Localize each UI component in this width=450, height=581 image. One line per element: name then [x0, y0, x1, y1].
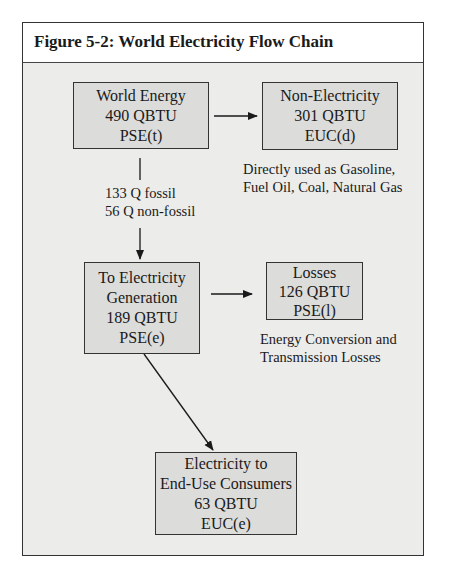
note-line: Transmission Losses	[260, 348, 397, 366]
node-value: 63 QBTU	[156, 494, 296, 514]
node-value: 189 QBTU	[85, 308, 199, 328]
note-fossil-split: 133 Q fossil 56 Q non-fossil	[105, 184, 195, 220]
node-to-electricity-generation: To Electricity Generation 189 QBTU PSE(e…	[84, 262, 200, 354]
node-code: PSE(e)	[85, 328, 199, 348]
node-world-energy: World Energy 490 QBTU PSE(t)	[73, 82, 209, 149]
node-code: PSE(t)	[74, 126, 208, 146]
note-non-electricity: Directly used as Gasoline, Fuel Oil, Coa…	[243, 160, 402, 196]
note-line: 56 Q non-fossil	[105, 202, 195, 220]
note-line: 133 Q fossil	[105, 184, 195, 202]
figure-title: Figure 5-2: World Electricity Flow Chain	[34, 32, 333, 52]
node-code: PSE(l)	[267, 301, 362, 320]
node-value: 126 QBTU	[267, 282, 362, 301]
note-line: Fuel Oil, Coal, Natural Gas	[243, 178, 402, 196]
node-value: 301 QBTU	[263, 106, 397, 126]
node-label: To Electricity	[85, 268, 199, 288]
node-label: World Energy	[74, 86, 208, 106]
node-losses: Losses 126 QBTU PSE(l)	[266, 262, 363, 320]
node-code: EUC(e)	[156, 514, 296, 534]
node-end-use-consumers: Electricity to End-Use Consumers 63 QBTU…	[155, 452, 297, 535]
node-label-2: Generation	[85, 288, 199, 308]
note-line: Directly used as Gasoline,	[243, 160, 402, 178]
node-value: 490 QBTU	[74, 106, 208, 126]
node-code: EUC(d)	[263, 126, 397, 146]
node-label-2: End-Use Consumers	[156, 474, 296, 494]
note-line: Energy Conversion and	[260, 330, 397, 348]
node-non-electricity: Non-Electricity 301 QBTU EUC(d)	[262, 82, 398, 150]
node-label: Electricity to	[156, 454, 296, 474]
node-label: Non-Electricity	[263, 86, 397, 106]
node-label: Losses	[267, 263, 362, 282]
note-losses: Energy Conversion and Transmission Losse…	[260, 330, 397, 366]
figure-header: Figure 5-2: World Electricity Flow Chain	[23, 23, 423, 63]
